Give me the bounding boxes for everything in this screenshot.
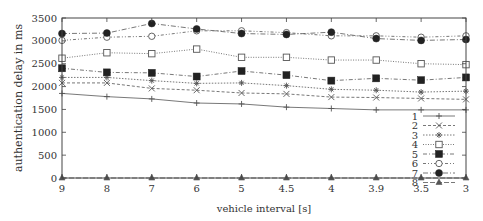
- y-tick-label: 0: [51, 173, 57, 184]
- line-chart: 0500100015002000250030003500987654.543.9…: [0, 0, 483, 221]
- series-6: [59, 28, 469, 44]
- marker-plus-icon: [418, 107, 424, 113]
- y-tick-label: 1500: [32, 104, 57, 115]
- marker-asterisk-icon: [373, 87, 379, 93]
- marker-open-circle-icon: [436, 160, 442, 166]
- marker-open-circle-icon: [149, 33, 155, 39]
- y-tick-label: 3000: [32, 35, 57, 46]
- marker-plus-icon: [436, 113, 442, 119]
- marker-filled-square-icon: [103, 69, 110, 76]
- legend-item: 4: [412, 139, 455, 150]
- marker-asterisk-icon: [283, 83, 289, 89]
- marker-filled-circle-icon: [328, 29, 335, 36]
- marker-plus-icon: [283, 104, 289, 110]
- marker-cross-icon: [436, 123, 442, 129]
- legend-item: 3: [412, 130, 455, 141]
- marker-open-square-icon: [418, 61, 424, 67]
- legend-item: 1: [412, 111, 455, 122]
- marker-plus-icon: [373, 107, 379, 113]
- marker-open-square-icon: [193, 46, 199, 52]
- marker-plus-icon: [149, 96, 155, 102]
- plot-frame: [62, 18, 466, 178]
- marker-asterisk-icon: [328, 86, 334, 92]
- marker-plus-icon: [239, 101, 245, 107]
- legend-item: 7: [412, 168, 455, 179]
- x-tick-label: 8: [104, 183, 110, 194]
- marker-filled-circle-icon: [436, 170, 443, 177]
- marker-plus-icon: [104, 94, 110, 100]
- marker-filled-square-icon: [193, 73, 200, 80]
- marker-asterisk-icon: [194, 80, 200, 86]
- marker-filled-circle-icon: [373, 35, 380, 42]
- marker-open-square-icon: [238, 54, 244, 60]
- marker-plus-icon: [328, 106, 334, 112]
- marker-filled-square-icon: [328, 77, 335, 84]
- marker-filled-circle-icon: [418, 37, 425, 44]
- x-tick-label: 6: [193, 183, 199, 194]
- x-tick-label: 5: [238, 183, 244, 194]
- marker-asterisk-icon: [418, 89, 424, 95]
- legend-item: 2: [412, 120, 455, 131]
- marker-open-square-icon: [328, 57, 334, 63]
- marker-filled-square-icon: [418, 77, 425, 84]
- series-5: [59, 65, 470, 84]
- legend-item: 6: [412, 158, 455, 169]
- x-tick-label: 4.5: [278, 183, 294, 194]
- y-tick-label: 500: [38, 150, 57, 161]
- marker-filled-circle-icon: [103, 30, 110, 37]
- marker-filled-square-icon: [283, 72, 290, 79]
- marker-open-square-icon: [283, 54, 289, 60]
- marker-open-square-icon: [104, 50, 110, 56]
- x-tick-label: 3.9: [368, 183, 384, 194]
- x-tick-label: 4: [328, 183, 334, 194]
- marker-filled-circle-icon: [283, 31, 290, 38]
- series-3: [59, 74, 469, 95]
- legend-item: 5: [412, 149, 455, 160]
- series-4: [59, 46, 469, 68]
- x-axis-label: vehicle interval [s]: [216, 203, 311, 214]
- series-layer: [59, 20, 470, 180]
- x-tick-label: 3: [463, 183, 469, 194]
- marker-open-square-icon: [436, 141, 442, 147]
- marker-filled-circle-icon: [193, 25, 200, 32]
- marker-open-square-icon: [149, 50, 155, 56]
- marker-asterisk-icon: [149, 78, 155, 84]
- marker-open-square-icon: [373, 57, 379, 63]
- marker-filled-square-icon: [436, 151, 443, 158]
- y-axis-label: authentication delay in ms: [12, 24, 25, 172]
- marker-filled-square-icon: [373, 75, 380, 82]
- legend-label: 8: [412, 177, 418, 188]
- x-tick-label: 7: [149, 183, 155, 194]
- marker-triangle-icon: [436, 179, 442, 185]
- y-tick-label: 3500: [32, 13, 57, 24]
- marker-asterisk-icon: [239, 80, 245, 86]
- marker-filled-circle-icon: [238, 30, 245, 37]
- y-tick-label: 2500: [32, 58, 57, 69]
- marker-filled-square-icon: [148, 69, 155, 76]
- y-tick-label: 1000: [32, 127, 57, 138]
- x-tick-label: 9: [59, 183, 65, 194]
- marker-filled-square-icon: [238, 68, 245, 75]
- legend: 12345678: [412, 111, 455, 189]
- series-8: [59, 175, 469, 181]
- marker-asterisk-icon: [436, 132, 442, 138]
- series-7: [59, 20, 470, 44]
- marker-plus-icon: [194, 100, 200, 106]
- y-tick-label: 2000: [32, 81, 57, 92]
